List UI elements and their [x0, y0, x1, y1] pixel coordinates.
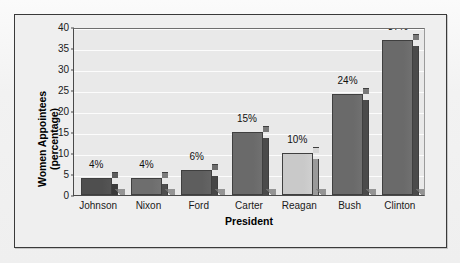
bar-top-face	[212, 164, 218, 170]
bar-top-face	[363, 88, 369, 94]
bar-top-face	[413, 34, 419, 40]
x-tick-label-johnson: Johnson	[79, 200, 117, 212]
bar-carter[interactable]: 15%	[232, 132, 263, 195]
bar-clinton[interactable]: 37%	[382, 40, 413, 195]
x-tick-label-bush: Bush	[338, 200, 361, 212]
gridline	[74, 71, 424, 72]
bar-side-face	[363, 100, 369, 195]
y-tick-label: 35	[58, 44, 69, 54]
bar-front-face	[332, 94, 363, 195]
bar-bush[interactable]: 24%	[332, 94, 363, 195]
plot-area: 4%4%6%15%10%24%37%	[73, 28, 425, 196]
bar-base-shadow	[363, 189, 376, 195]
bar-base-shadow	[162, 189, 175, 195]
y-tick-label: 0	[63, 191, 69, 201]
bar-reagan[interactable]: 10%	[282, 153, 313, 195]
bar-ford[interactable]: 6%	[181, 170, 212, 195]
x-tick-label-carter: Carter	[235, 200, 263, 212]
bar-top-face	[162, 172, 168, 178]
bar-base-shadow	[112, 189, 125, 195]
bar-base-shadow	[313, 189, 326, 195]
bar-front-face	[232, 132, 263, 195]
y-tick-label: 30	[58, 65, 69, 75]
bar-value-label: 24%	[338, 75, 358, 86]
bar-value-label: 4%	[89, 159, 103, 170]
bar-base-shadow	[263, 189, 276, 195]
x-tick-label-nixon: Nixon	[136, 200, 162, 212]
bar-side-face	[413, 46, 419, 195]
bar-value-label: 4%	[139, 159, 153, 170]
x-axis-ticks: JohnsonNixonFordCarterReaganBushClinton	[73, 200, 425, 216]
bar-front-face	[131, 178, 162, 195]
y-axis-ticks: 0510152025303540	[45, 28, 71, 196]
bar-front-face	[181, 170, 212, 195]
bar-johnson[interactable]: 4%	[81, 178, 112, 195]
bar-base-shadow	[212, 189, 225, 195]
y-tick-label: 20	[58, 107, 69, 117]
y-tick-label: 5	[63, 170, 69, 180]
bar-top-face	[263, 126, 269, 132]
plot-inner: 4%4%6%15%10%24%37%	[74, 29, 424, 195]
bar-front-face	[81, 178, 112, 195]
gridline	[74, 29, 424, 30]
bar-side-face	[263, 138, 269, 195]
gridline	[74, 50, 424, 51]
bar-value-label: 15%	[237, 113, 257, 124]
bar-top-face	[313, 147, 319, 153]
x-tick-label-reagan: Reagan	[282, 200, 317, 212]
bar-front-face	[282, 153, 313, 195]
x-axis-title: President	[73, 215, 425, 227]
bar-chart-figure: Women Appointees (percentage) 0510152025…	[0, 0, 460, 263]
y-tick-label: 40	[58, 23, 69, 33]
x-tick-label-clinton: Clinton	[384, 200, 415, 212]
y-tick-label: 25	[58, 86, 69, 96]
bar-value-label: 37%	[388, 29, 408, 32]
bar-value-label: 10%	[287, 134, 307, 145]
bar-nixon[interactable]: 4%	[131, 178, 162, 195]
gridline	[74, 92, 424, 93]
bar-top-face	[112, 172, 118, 178]
bar-value-label: 6%	[189, 151, 203, 162]
y-tick-label: 15	[58, 128, 69, 138]
bar-front-face	[382, 40, 413, 195]
bar-base-shadow	[413, 189, 424, 195]
x-tick-label-ford: Ford	[188, 200, 209, 212]
y-tick-label: 10	[58, 149, 69, 159]
